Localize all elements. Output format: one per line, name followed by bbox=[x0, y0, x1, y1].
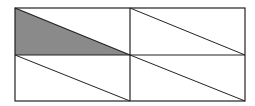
diagonal-bottom-right bbox=[130, 55, 245, 101]
grid-diagram bbox=[0, 0, 255, 106]
diagonal-bottom-left bbox=[15, 55, 130, 101]
diagonal-top-right bbox=[130, 8, 245, 55]
